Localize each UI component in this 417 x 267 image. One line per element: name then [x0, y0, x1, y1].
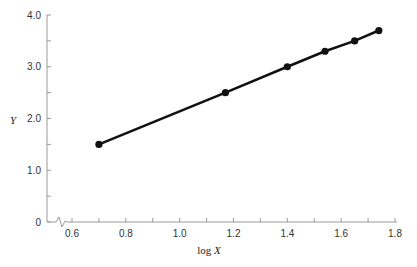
y-tick-label: 0: [35, 217, 41, 228]
x-axis-title: log X: [197, 244, 222, 256]
data-series: [95, 27, 382, 148]
x-tick-label: 0.6: [65, 228, 79, 239]
x-axis-title-var: X: [213, 244, 222, 256]
series-line: [99, 31, 379, 145]
y-tick-label: 2.0: [27, 113, 41, 124]
data-point-marker: [95, 141, 102, 148]
x-axis-title-prefix: log: [197, 244, 214, 256]
x-tick-label: 1.2: [227, 228, 241, 239]
y-tick-label: 4.0: [27, 10, 41, 21]
chart: 01.02.03.04.00.60.81.01.21.41.61.8 Y log…: [0, 0, 417, 267]
data-point-marker: [222, 89, 229, 96]
data-point-marker: [321, 48, 328, 55]
y-tick-label: 3.0: [27, 61, 41, 72]
y-axis-title: Y: [10, 114, 18, 126]
x-tick-label: 1.6: [334, 228, 348, 239]
axis-break-icon: [47, 217, 67, 227]
x-tick-label: 1.4: [280, 228, 294, 239]
data-point-marker: [284, 63, 291, 70]
y-tick-label: 1.0: [27, 165, 41, 176]
data-point-marker: [375, 27, 382, 34]
x-tick-label: 1.8: [388, 228, 402, 239]
x-tick-label: 0.8: [119, 228, 133, 239]
data-point-marker: [351, 37, 358, 44]
x-tick-label: 1.0: [173, 228, 187, 239]
